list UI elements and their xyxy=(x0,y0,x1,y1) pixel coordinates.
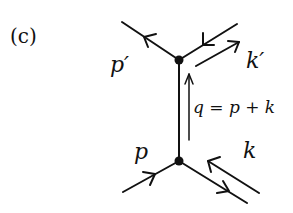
p-prime-label: p′ xyxy=(110,54,129,76)
p-line xyxy=(123,161,179,192)
q-relation-label: q = p + k xyxy=(193,99,275,116)
feynman-diagram-figure: (c) p′ k′ q = p + k p k xyxy=(0,0,293,213)
k-line xyxy=(179,161,247,203)
top-vertex xyxy=(175,56,184,65)
k-momentum-line xyxy=(208,161,259,193)
bottom-vertex xyxy=(175,157,184,166)
p-label: p xyxy=(134,141,148,163)
k-label: k xyxy=(243,140,256,162)
panel-label: (c) xyxy=(10,26,37,46)
k-line-arrow-icon xyxy=(217,181,229,193)
p-prime-line xyxy=(122,22,179,60)
k-prime-label: k′ xyxy=(246,50,264,72)
